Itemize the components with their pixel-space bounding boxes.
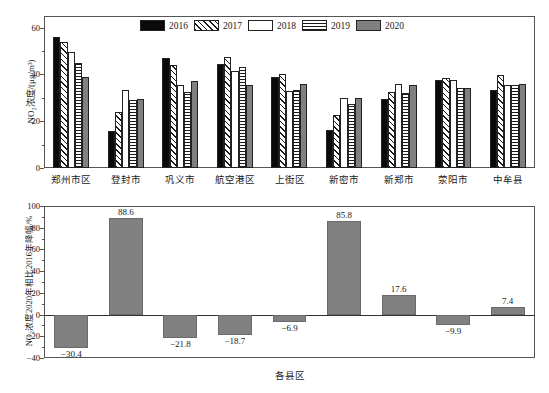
top-chart-y-minor-tick — [42, 51, 45, 52]
top-chart-bar — [184, 92, 191, 168]
top-chart-y-tick-mark — [40, 168, 44, 169]
top-chart-category-label: 郑州市区 — [51, 172, 91, 186]
top-chart-bar — [388, 92, 395, 168]
bottom-chart-y-tick-mark — [40, 271, 44, 272]
bottom-chart-y-tick-mark — [40, 206, 44, 207]
top-chart-bar — [68, 52, 75, 168]
top-chart-category-label: 中牟县 — [493, 172, 523, 186]
legend-item[interactable]: 2018 — [248, 20, 296, 31]
top-chart-bar — [333, 115, 340, 168]
chart-legend: 20162017201820192020 — [140, 20, 404, 31]
top-chart-bar — [170, 65, 177, 168]
legend-label: 2018 — [277, 21, 296, 31]
top-chart-bar — [435, 80, 442, 168]
bottom-chart-y-tick-mark — [40, 336, 44, 337]
bottom-chart-y-minor-tick — [42, 347, 45, 348]
bottom-chart-y-tick-mark — [40, 358, 44, 359]
bottom-chart-y-minor-tick — [42, 304, 45, 305]
legend-swatch-2016 — [140, 20, 165, 31]
legend-item[interactable]: 2019 — [302, 20, 350, 31]
top-chart-category-label: 新郑市 — [384, 172, 414, 186]
top-chart-bar — [122, 90, 129, 168]
bottom-chart-y-tick-mark — [40, 293, 44, 294]
legend-item[interactable]: 2020 — [356, 20, 404, 31]
top-chart-bar — [279, 74, 286, 168]
top-chart-bar — [82, 77, 89, 168]
legend-item[interactable]: 2017 — [194, 20, 242, 31]
top-chart-bar — [457, 88, 464, 168]
bottom-chart-data-label: 7.4 — [502, 296, 513, 306]
legend-swatch-2020 — [356, 20, 381, 31]
bottom-chart-y-minor-tick — [42, 239, 45, 240]
top-chart-bar — [409, 85, 416, 168]
top-chart-bar — [511, 85, 518, 168]
top-chart-bar — [60, 42, 67, 168]
legend-swatch-2019 — [302, 20, 327, 31]
bottom-chart-bar — [436, 315, 470, 326]
top-chart-bar — [191, 81, 198, 168]
bottom-chart-y-tick-mark — [40, 228, 44, 229]
top-chart-bar — [504, 85, 511, 168]
top-chart-bar — [490, 90, 497, 168]
bottom-chart-data-label: 85.8 — [336, 210, 352, 220]
bottom-chart-data-label: −18.7 — [225, 336, 246, 346]
bottom-chart-data-label: −6.9 — [281, 323, 297, 333]
bottom-chart-data-label: −9.9 — [445, 326, 461, 336]
top-chart-bar — [137, 99, 144, 168]
bottom-chart-bar — [491, 307, 525, 315]
top-chart-bar — [53, 37, 60, 168]
top-chart-bar — [519, 84, 526, 168]
bottom-chart-bar — [382, 295, 416, 314]
top-chart-bar — [177, 85, 184, 168]
top-chart-category-label: 登封市 — [111, 172, 141, 186]
top-chart-category-label: 荥阳市 — [438, 172, 468, 186]
top-chart-bar — [442, 78, 449, 168]
bottom-chart-data-label: 88.6 — [118, 207, 134, 217]
top-chart-y-minor-tick — [42, 98, 45, 99]
bottom-chart-data-label: −21.8 — [170, 339, 191, 349]
top-chart-bar — [224, 57, 231, 168]
bottom-chart-bar — [327, 221, 361, 314]
top-chart-bar — [217, 64, 224, 168]
top-chart-bar — [395, 84, 402, 168]
top-chart-bar — [293, 90, 300, 168]
top-chart-bar — [129, 100, 136, 168]
top-chart-bar — [115, 112, 122, 168]
bottom-chart-y-minor-tick — [42, 325, 45, 326]
top-chart-category-label: 上街区 — [275, 172, 305, 186]
bottom-chart-bar — [218, 315, 252, 335]
top-chart-bar — [286, 91, 293, 168]
top-chart-y-tick-mark — [40, 74, 44, 75]
top-chart-bar — [348, 104, 355, 168]
top-chart-category-label: 巩义市 — [165, 172, 195, 186]
top-chart-category-label: 新密市 — [329, 172, 359, 186]
top-chart-bar — [271, 77, 278, 168]
bottom-chart-bar — [109, 218, 143, 314]
legend-item[interactable]: 2016 — [140, 20, 188, 31]
top-chart-category-label: 航空港区 — [215, 172, 255, 186]
top-chart-y-tick-mark — [40, 121, 44, 122]
top-chart-bar — [497, 75, 504, 168]
legend-label: 2016 — [169, 21, 188, 31]
top-chart-bar — [381, 99, 388, 168]
top-chart-bar — [355, 98, 362, 168]
top-chart-bar — [239, 67, 246, 168]
bottom-chart-data-label: −30.4 — [61, 349, 82, 359]
legend-swatch-2017 — [194, 20, 219, 31]
top-chart-y-tick-mark — [40, 28, 44, 29]
bottom-chart-y-minor-tick — [42, 260, 45, 261]
bottom-chart-y-minor-tick — [42, 217, 45, 218]
figure-canvas: 0204060 郑州市区登封市巩义市航空港区上街区新密市新郑市荥阳市中牟县 NO… — [0, 0, 549, 393]
top-chart-bar — [326, 130, 333, 168]
top-chart-bar — [402, 93, 409, 168]
top-chart-bar — [246, 85, 253, 168]
bottom-chart-bar — [163, 315, 197, 339]
legend-label: 2019 — [331, 21, 350, 31]
bottom-chart-bar — [273, 315, 307, 322]
bottom-chart-y-axis-title: NO₂浓度2020年相比2016年降幅/% — [22, 191, 34, 371]
top-chart-bar — [300, 84, 307, 168]
bottom-chart-bar — [54, 315, 88, 348]
top-chart-bar — [450, 80, 457, 168]
bottom-chart-y-minor-tick — [42, 282, 45, 283]
legend-label: 2020 — [385, 21, 404, 31]
